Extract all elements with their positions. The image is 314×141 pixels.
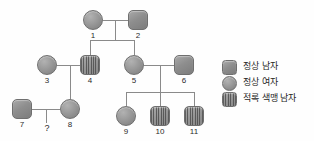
- individual-8-symbol[interactable]: [60, 99, 80, 119]
- unknown-offspring-marker: ?: [41, 124, 53, 133]
- individual-1-symbol[interactable]: [83, 10, 103, 30]
- individual-11-symbol[interactable]: [184, 106, 204, 126]
- individual-4-label: 4: [79, 76, 101, 85]
- sibship-bar-gen2: [90, 40, 134, 41]
- sib-drop-11: [194, 92, 195, 106]
- individual-6-label: 6: [173, 76, 195, 85]
- individual-3-label: 3: [36, 76, 58, 85]
- sib-drop-5: [134, 40, 135, 55]
- legend-item-colorblind-male: 적록 색맹 남자: [222, 90, 314, 106]
- individual-9-label: 9: [115, 127, 137, 136]
- legend-label-normal-male: 정상 남자: [243, 61, 278, 72]
- legend-label-colorblind-male: 적록 색맹 남자: [243, 93, 296, 104]
- sib-drop-9: [126, 92, 127, 106]
- individual-7-label: 7: [11, 120, 33, 129]
- individual-1-label: 1: [82, 31, 104, 40]
- individual-8-label: 8: [59, 120, 81, 129]
- legend-label-normal-female: 정상 여자: [243, 77, 278, 88]
- individual-11-label: 11: [183, 127, 205, 136]
- normal-female-key-icon: [222, 76, 236, 89]
- descent-line-5-6: [160, 65, 161, 92]
- sib-drop-4: [90, 40, 91, 55]
- descent-line-7-8: [46, 109, 47, 123]
- descent-line-1-2: [115, 20, 116, 40]
- descent-line-3-4: [70, 65, 71, 99]
- mating-line-3-4: [57, 65, 80, 66]
- individual-10-label: 10: [149, 127, 171, 136]
- individual-2-symbol[interactable]: [128, 10, 148, 30]
- individual-5-symbol[interactable]: [124, 55, 144, 75]
- mating-line-5-6: [144, 65, 174, 66]
- colorblind-male-key-icon: [222, 92, 236, 105]
- pedigree-diagram: 1 2 3 4 5 6 7 8 9 10 11 ? 정상 남자 정상 여자 적록…: [0, 0, 314, 141]
- individual-3-symbol[interactable]: [37, 55, 57, 75]
- legend-item-normal-female: 정상 여자: [222, 74, 314, 90]
- individual-6-symbol[interactable]: [174, 55, 194, 75]
- individual-9-symbol[interactable]: [116, 106, 136, 126]
- individual-5-label: 5: [123, 76, 145, 85]
- individual-2-label: 2: [127, 31, 149, 40]
- normal-male-key-icon: [222, 60, 236, 73]
- individual-10-symbol[interactable]: [150, 106, 170, 126]
- legend: 정상 남자 정상 여자 적록 색맹 남자: [222, 58, 314, 106]
- individual-7-symbol[interactable]: [12, 99, 32, 119]
- legend-item-normal-male: 정상 남자: [222, 58, 314, 74]
- individual-4-symbol[interactable]: [80, 55, 100, 75]
- sib-drop-10: [160, 92, 161, 106]
